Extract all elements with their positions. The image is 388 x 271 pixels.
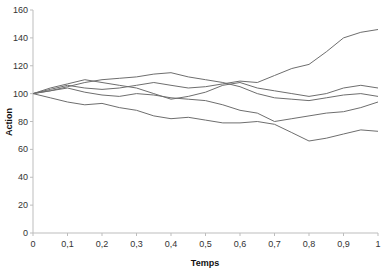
y-tick-label: 0 — [23, 228, 28, 238]
x-tick-label: 0,4 — [165, 239, 178, 249]
x-axis: 00,10,20,30,40,50,60,70,80,91 — [30, 233, 380, 249]
y-tick-label: 60 — [18, 144, 28, 154]
series-lines — [33, 30, 378, 142]
y-axis: 020406080100120140160 — [13, 5, 33, 238]
y-tick-label: 120 — [13, 61, 28, 71]
y-tick-label: 100 — [13, 89, 28, 99]
y-tick-label: 40 — [18, 172, 28, 182]
x-tick-label: 0,3 — [130, 239, 143, 249]
y-tick-label: 80 — [18, 117, 28, 127]
x-axis-title: Temps — [191, 258, 219, 268]
series-line-1 — [33, 30, 378, 94]
y-tick-label: 20 — [18, 200, 28, 210]
x-tick-label: 1 — [375, 239, 380, 249]
y-tick-label: 140 — [13, 33, 28, 43]
x-tick-label: 0,9 — [337, 239, 350, 249]
line-chart: 020406080100120140160 00,10,20,30,40,50,… — [0, 0, 388, 271]
y-axis-title: Action — [4, 108, 14, 136]
x-tick-label: 0,6 — [234, 239, 247, 249]
x-tick-label: 0,7 — [268, 239, 281, 249]
x-tick-label: 0,1 — [61, 239, 74, 249]
x-tick-label: 0 — [30, 239, 35, 249]
y-tick-label: 160 — [13, 5, 28, 15]
x-tick-label: 0,8 — [303, 239, 316, 249]
x-tick-label: 0,5 — [199, 239, 212, 249]
x-tick-label: 0,2 — [96, 239, 109, 249]
